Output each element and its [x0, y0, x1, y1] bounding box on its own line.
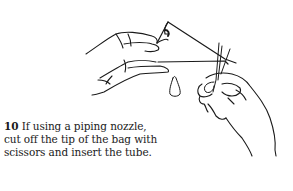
scissors-icon [204, 43, 230, 93]
step-text: If using a piping nozzle, cut off the ti… [4, 120, 157, 158]
step-number: 10 [4, 120, 18, 132]
piping-bag-icon [157, 22, 236, 64]
step-instruction: 10 If using a piping nozzle, cut off the… [4, 120, 164, 159]
nozzle-icon [170, 77, 180, 97]
right-hand-icon [198, 73, 276, 156]
illustration-hands-cutting-piping-bag [0, 0, 293, 191]
left-hand-icon [86, 32, 169, 95]
